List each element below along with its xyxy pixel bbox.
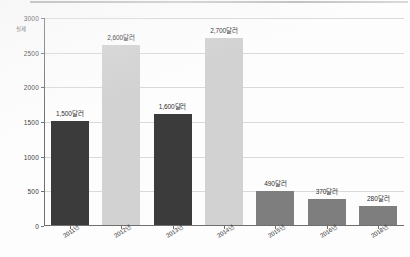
- y-axis-tick-label: 2000: [24, 84, 39, 91]
- y-axis-tick-label: 3000: [24, 15, 39, 22]
- bar-value-label: 370달러: [316, 186, 338, 196]
- y-axis-tick-label: 1000: [24, 153, 39, 160]
- y-axis-tickmark: [41, 157, 44, 158]
- y-axis-tick-label: 0: [35, 223, 39, 230]
- bar[interactable]: 370달러: [308, 199, 346, 225]
- bar-slot: 2,600달러: [102, 45, 140, 225]
- plot-area: 050010001500200025003000 1,500달러2,600달러1…: [44, 18, 404, 226]
- bar-slot: 370달러: [308, 199, 346, 225]
- bar-slot: 1,600달러: [154, 114, 192, 225]
- bar-slot: 2,700달러: [205, 38, 243, 225]
- bar-slot: 280달러: [359, 206, 397, 225]
- y-axis-tickmark: [41, 122, 44, 123]
- bar-value-label: 2,600달러: [107, 32, 135, 42]
- y-axis-tick-label: 2500: [24, 49, 39, 56]
- bar-slot: 1,500달러: [51, 121, 89, 225]
- bar-value-label: 1,600달러: [159, 101, 187, 111]
- bar[interactable]: 2,700달러: [205, 38, 243, 225]
- y-axis-tick-label: 500: [28, 188, 39, 195]
- y-axis-unit-label: 실제: [16, 25, 26, 33]
- bar-value-label: 490달러: [264, 178, 286, 188]
- bar-slot: 490달러: [256, 191, 294, 225]
- bar[interactable]: 280달러: [359, 206, 397, 225]
- bar-value-label: 2,700달러: [210, 25, 238, 35]
- y-axis-tickmark: [41, 53, 44, 54]
- bar[interactable]: 1,600달러: [154, 114, 192, 225]
- bar-value-label: 280달러: [367, 193, 389, 203]
- y-axis-tickmark: [41, 87, 44, 88]
- bar-value-label: 1,500달러: [56, 108, 84, 118]
- scan-edge-artifact: [30, 1, 408, 3]
- y-axis-tick-label: 1500: [24, 119, 39, 126]
- x-axis-labels: 2011년2012년2013년2014년2015년2016년2018년: [44, 226, 404, 257]
- bar[interactable]: 2,600달러: [102, 45, 140, 225]
- gridline: [45, 18, 404, 19]
- bar[interactable]: 490달러: [256, 191, 294, 225]
- bar[interactable]: 1,500달러: [51, 121, 89, 225]
- chart-screenshot: 실제 050010001500200025003000 1,500달러2,600…: [0, 0, 410, 257]
- y-axis-tickmark: [41, 18, 44, 19]
- y-axis-tickmark: [41, 191, 44, 192]
